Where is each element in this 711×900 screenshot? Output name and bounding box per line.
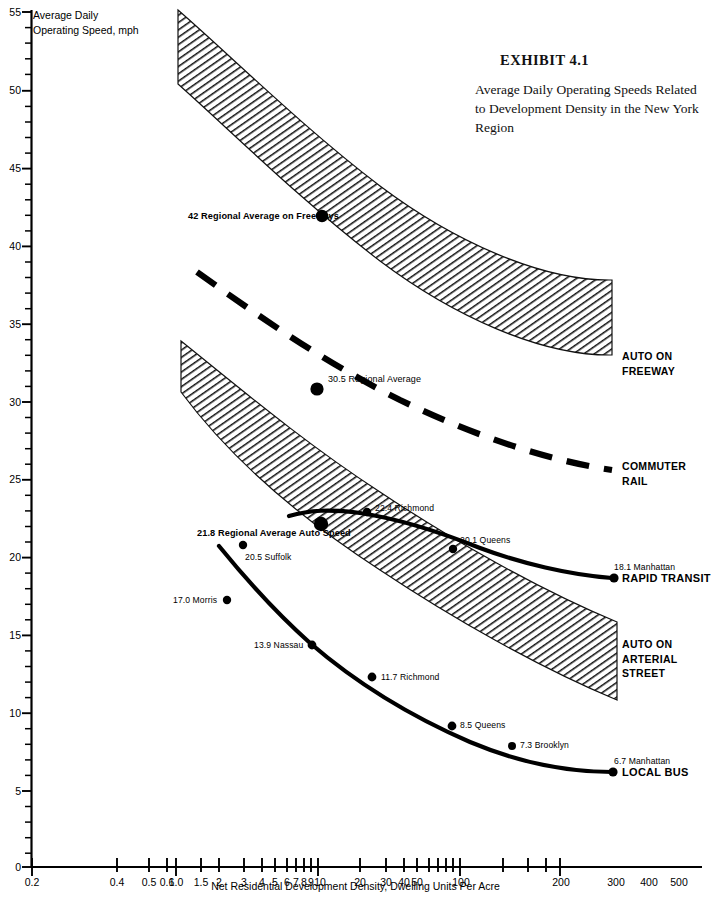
marker-suffolk: [239, 541, 247, 549]
axis-lines: [32, 10, 703, 868]
exhibit-number: EXHIBIT 4.1: [500, 52, 589, 69]
label-richmond-rapid-transit: 22.4 Richmond: [375, 503, 434, 513]
marker-manhattan-rt: [609, 573, 618, 582]
y-tick-5: 5: [0, 785, 21, 797]
band-label-commuter-rail-line1: COMMUTER: [622, 459, 686, 474]
x-tick-400: 400: [635, 876, 663, 888]
x-tick-10: 10: [308, 876, 332, 888]
y-axis-title-line2: Operating Speed, mph: [33, 23, 139, 38]
marker-queens-rt: [449, 545, 457, 553]
marker-queens-bus: [448, 722, 457, 731]
y-tick-40: 40: [0, 240, 21, 252]
marker-morris: [223, 596, 231, 604]
label-manhattan-local-bus: 6.7 Manhattan: [614, 756, 670, 766]
marker-manhattan-bus: [608, 767, 617, 776]
band-label-commuter-rail-line2: RAIL: [622, 474, 686, 489]
band-label-arterial-line2: ARTERIAL: [622, 652, 677, 667]
label-auto-regional-average: 21.8 Regional Average Auto Speed: [197, 528, 351, 538]
marker-nassau: [308, 641, 317, 650]
exhibit-subtitle: Average Daily Operating Speeds Related t…: [475, 80, 705, 137]
x-tick-1.0: 1.0: [162, 876, 190, 888]
label-brooklyn-local-bus: 7.3 Brooklyn: [520, 740, 569, 750]
band-label-commuter-rail: COMMUTER RAIL: [622, 459, 686, 488]
y-axis-title-line1: Average Daily: [33, 8, 139, 23]
y-tick-10: 10: [0, 707, 21, 719]
y-tick-30: 30: [0, 396, 21, 408]
y-axis-title: Average Daily Operating Speed, mph: [33, 8, 139, 38]
band-label-auto-on-freeway-line1: AUTO ON: [622, 349, 675, 364]
label-morris: 17.0 Morris: [173, 595, 217, 605]
label-manhattan-rapid-transit: 18.1 Manhattan: [614, 562, 675, 572]
x-tick-300: 300: [602, 876, 630, 888]
y-axis-ticks: [22, 12, 31, 867]
band-label-arterial-line1: AUTO ON: [622, 637, 677, 652]
y-tick-15: 15: [0, 629, 21, 641]
marker-brooklyn-bus: [508, 742, 516, 750]
band-label-arterial-line3: STREET: [622, 666, 677, 681]
marker-rail-avg: [310, 382, 323, 395]
y-tick-35: 35: [0, 318, 21, 330]
marker-richmond-rt: [363, 508, 371, 516]
y-tick-50: 50: [0, 84, 21, 96]
x-tick-20: 20: [348, 876, 372, 888]
label-nassau: 13.9 Nassau: [254, 640, 303, 650]
band-label-auto-on-freeway: AUTO ON FREEWAY: [622, 349, 675, 378]
label-suffolk: 20.5 Suffolk: [245, 552, 291, 562]
x-tick-50: 50: [405, 876, 429, 888]
x-tick-200: 200: [547, 876, 575, 888]
marker-richmond-bus: [368, 673, 377, 682]
y-tick-0: 0: [0, 861, 21, 873]
mode-label-local-bus: LOCAL BUS: [622, 766, 689, 778]
y-tick-55: 55: [0, 6, 21, 18]
label-freeway-regional-average: 42 Regional Average on Freeways: [188, 211, 339, 221]
label-queens-rapid-transit: 20.1 Queens: [460, 535, 510, 545]
label-rail-regional-average: 30.5 Regional Average: [328, 374, 421, 384]
mode-label-rapid-transit: RAPID TRANSIT: [622, 572, 711, 584]
x-tick-2: 2: [207, 876, 231, 888]
y-tick-45: 45: [0, 162, 21, 174]
chart-figure: EXHIBIT 4.1 Average Daily Operating Spee…: [0, 0, 711, 900]
x-tick-100: 100: [447, 876, 475, 888]
x-tick-0.4: 0.4: [103, 876, 131, 888]
x-tick-0.2: 0.2: [18, 876, 46, 888]
x-tick-500: 500: [665, 876, 693, 888]
band-label-auto-on-arterial-street: AUTO ON ARTERIAL STREET: [622, 637, 677, 681]
label-richmond-local-bus: 11.7 Richmond: [381, 672, 439, 682]
y-tick-20: 20: [0, 551, 21, 563]
y-tick-25: 25: [0, 473, 21, 485]
label-queens-local-bus: 8.5 Queens: [460, 720, 505, 730]
band-label-auto-on-freeway-line2: FREEWAY: [622, 364, 675, 379]
